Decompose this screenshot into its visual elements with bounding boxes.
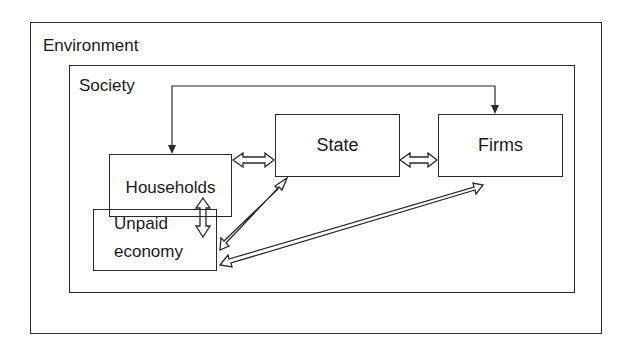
arrowhead-to-firms [491,105,499,114]
households-state-arrow [233,153,274,167]
unpaid-economy-label-line2: economy [114,242,183,262]
firms-label: Firms [478,135,523,156]
state-box: State [275,114,400,177]
firms-box: Firms [438,114,563,177]
households-label: Households [126,178,216,198]
state-label: State [316,135,358,156]
unpaid-economy-box: Unpaid economy [93,209,217,271]
arrowhead-to-households [168,145,176,154]
unpaid-economy-label-line1: Unpaid [114,214,168,234]
households-box: Households [109,154,232,217]
state-firms-arrow [400,153,437,167]
firms-unpaid-arrow [220,183,483,267]
